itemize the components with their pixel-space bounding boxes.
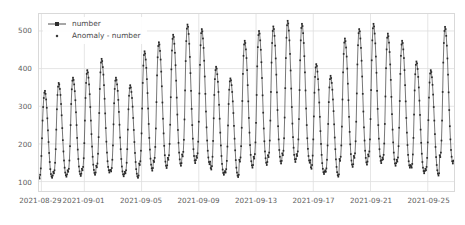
y-tick-label: 100 <box>18 178 32 187</box>
x-tick-label: 2021-09-05 <box>120 196 162 205</box>
series-line-number <box>39 21 454 179</box>
y-axis-tick-labels: 100200300400500 <box>0 13 34 192</box>
legend-entry-anomaly: Anomaly - number <box>47 31 141 41</box>
x-axis-tick-labels: 2021-08-292021-09-012021-09-052021-09-09… <box>38 194 455 214</box>
x-tick-label: 2021-08-29 <box>19 196 61 205</box>
y-tick-label: 400 <box>18 64 32 73</box>
y-tick-label: 300 <box>18 102 32 111</box>
x-tick-label: 2021-09-13 <box>235 196 277 205</box>
legend-label-number: number <box>72 19 101 29</box>
x-tick-label: 2021-09-01 <box>62 196 104 205</box>
x-tick-label: 2021-09-17 <box>292 196 334 205</box>
legend-label-anomaly: Anomaly - number <box>72 31 141 41</box>
x-tick-label: 2021-09-25 <box>407 196 449 205</box>
legend-entry-number: number <box>47 19 141 29</box>
x-tick-label: 2021-09-09 <box>177 196 219 205</box>
dot-icon <box>47 31 67 41</box>
y-tick-label: 200 <box>18 140 32 149</box>
y-tick-label: 500 <box>18 26 32 35</box>
x-tick-label: 2021-09-21 <box>350 196 392 205</box>
chart-legend: number Anomaly - number <box>43 17 147 44</box>
plot-area: number Anomaly - number <box>38 13 455 192</box>
chart-figure: 100200300400500 number A <box>0 0 465 225</box>
line-with-square-icon <box>47 19 67 29</box>
